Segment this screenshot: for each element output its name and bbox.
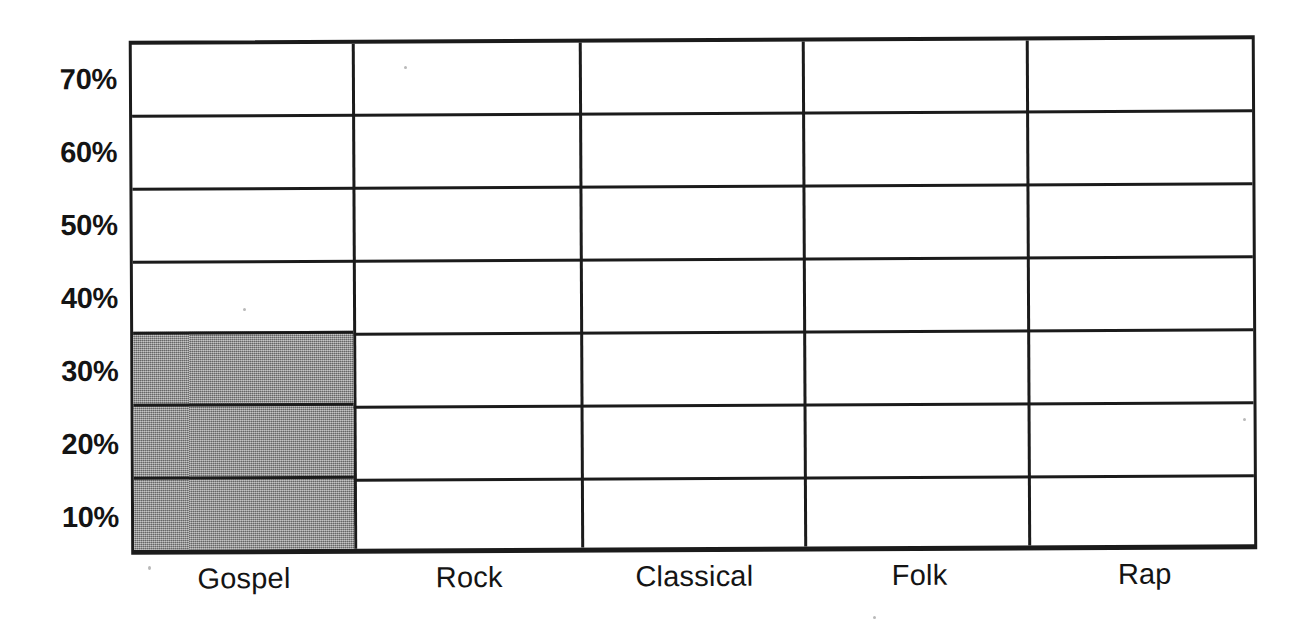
gridline-horizontal [132, 182, 1252, 190]
bar-rap [1031, 544, 1254, 545]
x-axis-tick-label: Folk [807, 554, 1032, 601]
scan-speck [243, 308, 246, 311]
y-axis-tick-label: 70% [17, 65, 117, 94]
chart-canvas-tilt-wrapper: 70% 60% 50% 40% 30% 20% 10% [0, 0, 1292, 624]
bar-rock [357, 548, 581, 549]
y-axis: 70% 60% 50% 40% 30% 20% 10% [17, 43, 120, 555]
scan-speck [148, 566, 151, 570]
y-axis-tick-label: 10% [19, 503, 119, 532]
x-axis-tick-label: Classical [582, 555, 807, 602]
bar-folk [807, 545, 1028, 546]
gridline-horizontal-over-bar [134, 403, 354, 407]
gridline-horizontal [133, 255, 1253, 263]
bar-top-edge [133, 331, 353, 335]
y-axis-tick-label: 60% [17, 138, 117, 167]
x-axis-tick-label: Gospel [131, 558, 356, 605]
y-axis-tick-label: 20% [19, 430, 119, 459]
y-axis-tick-label: 40% [18, 284, 118, 313]
x-axis-tick-label: Rock [356, 557, 581, 604]
gridline-vertical [802, 41, 807, 546]
x-axis-tick-label: Rap [1032, 553, 1257, 600]
scan-speck [1243, 418, 1246, 421]
gridline-vertical [1026, 40, 1031, 545]
bar-classical [584, 546, 804, 547]
y-axis-tick-label: 30% [18, 357, 118, 386]
bar-gospel [133, 331, 354, 550]
scan-speck [404, 66, 407, 69]
scan-speck [873, 616, 876, 619]
gridline-vertical [579, 43, 584, 548]
y-axis-tick-label: 50% [18, 211, 118, 240]
plot-area [129, 35, 1257, 554]
gridline-horizontal [132, 109, 1252, 117]
bar-chart: 70% 60% 50% 40% 30% 20% 10% [0, 0, 1292, 624]
x-axis: Gospel Rock Classical Folk Rap [131, 553, 1257, 605]
gridline-horizontal-over-bar [134, 476, 354, 480]
